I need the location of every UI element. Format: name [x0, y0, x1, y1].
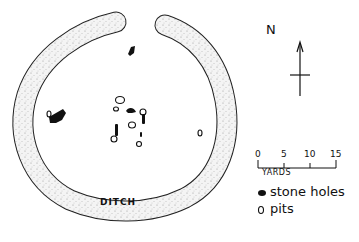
north-label: N [266, 22, 276, 37]
stone-hole [49, 109, 66, 123]
pit [137, 142, 142, 147]
pit [114, 107, 119, 111]
scale-tick-0: 0 [255, 149, 261, 159]
stone-holes [49, 46, 145, 137]
pits [47, 97, 202, 147]
north-arrow-icon [290, 42, 310, 96]
scale-tick-5: 5 [281, 149, 287, 159]
stone-hole [115, 124, 118, 136]
scale-bar [258, 160, 336, 168]
ditch-label: DITCH [100, 197, 136, 207]
pit [116, 97, 125, 104]
stone-hole-legend-icon [258, 190, 266, 196]
pit [111, 136, 117, 142]
legend-label: pits [270, 201, 294, 216]
scale-tick-10: 10 [304, 149, 315, 159]
site-plan [0, 0, 359, 242]
legend-label: stone holes [270, 184, 345, 199]
scale-unit-label: YARDS [262, 168, 291, 177]
legend-pits: pits [270, 201, 294, 216]
stone-hole [140, 132, 142, 137]
pit [129, 122, 136, 128]
legend-stone-holes: stone holes [270, 184, 345, 199]
pit-legend-icon [259, 207, 264, 214]
stone-hole [126, 108, 136, 113]
scale-tick-15: 15 [330, 149, 341, 159]
pit [198, 130, 202, 136]
pit [47, 111, 51, 117]
stone-hole [128, 46, 135, 56]
